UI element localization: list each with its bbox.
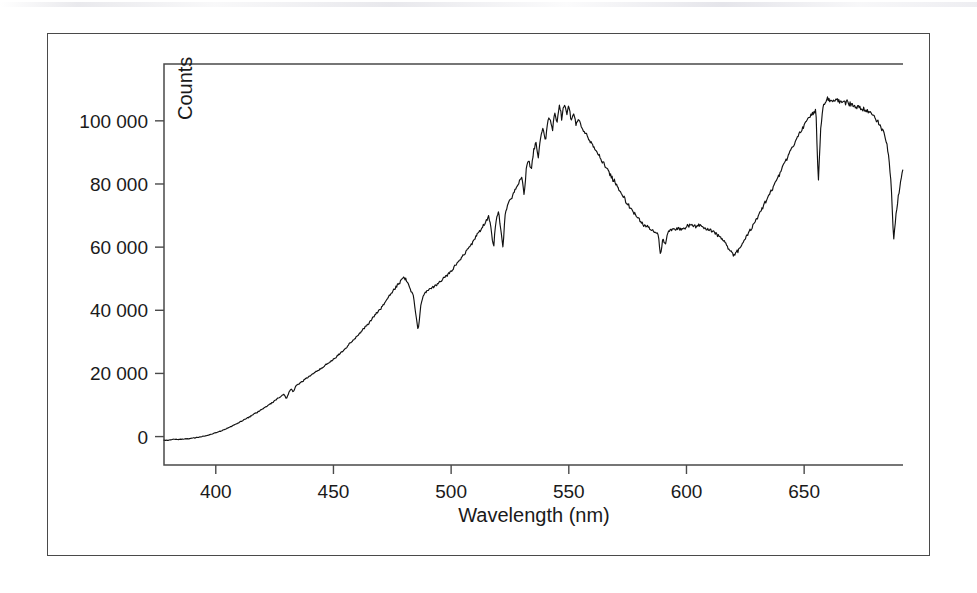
y-axis-tick-label: 40 000 (90, 300, 148, 321)
plot-frame-path (164, 64, 903, 465)
x-axis-tick-label: 400 (200, 481, 232, 502)
x-axis-title: Wavelength (nm) (458, 504, 610, 526)
spectrum-curve (164, 97, 903, 441)
y-axis-tick-label: 60 000 (90, 237, 148, 258)
y-axis-tick-label: 80 000 (90, 174, 148, 195)
y-axis-tick-label: 20 000 (90, 363, 148, 384)
y-axis-tick-labels: 020 00040 00060 00080 000100 000 (79, 111, 148, 448)
y-axis-tick-label: 0 (137, 427, 148, 448)
plot-axes (164, 64, 903, 465)
x-axis-tick-label: 550 (553, 481, 585, 502)
x-axis-tick-label: 600 (671, 481, 703, 502)
spectrum-chart: 020 00040 00060 00080 000100 000 4004505… (0, 0, 977, 593)
x-axis-tick-labels: 400450500550600650 (200, 481, 820, 502)
y-axis-title: Counts (174, 57, 196, 120)
y-axis-ticks (155, 121, 164, 437)
x-axis-tick-label: 650 (788, 481, 820, 502)
x-axis-ticks (216, 465, 804, 474)
x-axis-tick-label: 500 (435, 481, 467, 502)
y-axis-tick-label: 100 000 (79, 111, 148, 132)
spectrum-chart-svg: 020 00040 00060 00080 000100 000 4004505… (0, 0, 977, 593)
x-axis-tick-label: 450 (318, 481, 350, 502)
